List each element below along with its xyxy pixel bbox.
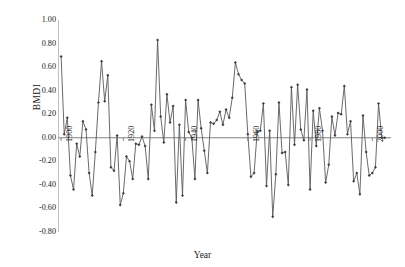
y-tick-label: 0.80 (26, 40, 56, 48)
x-tick-label: 1900 (65, 125, 74, 141)
y-tick-label: -0.40 (26, 181, 56, 189)
y-tick-label: 0.00 (26, 134, 56, 142)
y-tick-label: -0.80 (26, 228, 56, 236)
x-tick-label: 1980 (314, 125, 323, 141)
chart-figure: BMDI 1.000.800.600.400.200.00-0.20-0.40-… (0, 0, 405, 267)
y-tick-label: -0.60 (26, 204, 56, 212)
x-tick-label: 2000 (376, 125, 385, 141)
x-tick-label: 1960 (252, 125, 261, 141)
x-axis-tick-labels: 190019201940196019802000 (58, 0, 391, 267)
y-tick-label: 1.00 (26, 16, 56, 24)
x-axis-title: Year (0, 250, 405, 260)
y-tick-label: 0.20 (26, 110, 56, 118)
y-tick-label: -0.20 (26, 157, 56, 165)
y-tick-label: 0.40 (26, 87, 56, 95)
y-axis-tick-labels: 1.000.800.600.400.200.00-0.20-0.40-0.60-… (24, 0, 56, 267)
x-tick-label: 1920 (127, 125, 136, 141)
x-tick-label: 1940 (190, 125, 199, 141)
y-tick-label: 0.60 (26, 63, 56, 71)
